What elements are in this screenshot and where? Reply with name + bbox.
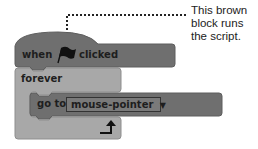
hat-clicked-label: clicked	[79, 49, 118, 60]
goto-label: go to	[37, 98, 66, 109]
dropdown-chevron-icon: ▼	[160, 101, 166, 110]
dropdown-value: mouse-pointer	[71, 99, 153, 110]
goto-target-dropdown[interactable]: mouse-pointer ▼	[66, 97, 161, 112]
forever-label: forever	[21, 73, 62, 84]
hat-when-label: when	[22, 49, 52, 60]
